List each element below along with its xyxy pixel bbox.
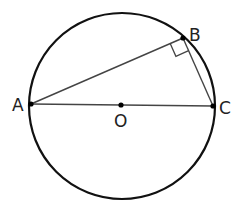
point-b bbox=[180, 35, 185, 40]
point-a bbox=[28, 101, 33, 106]
point-o-center bbox=[118, 102, 123, 107]
geometry-diagram: A B C O bbox=[0, 0, 241, 210]
point-c bbox=[210, 103, 215, 108]
label-o: O bbox=[114, 111, 127, 131]
label-b: B bbox=[189, 25, 201, 45]
segment-ab bbox=[31, 38, 183, 104]
label-a: A bbox=[12, 95, 24, 115]
label-c: C bbox=[219, 98, 231, 118]
